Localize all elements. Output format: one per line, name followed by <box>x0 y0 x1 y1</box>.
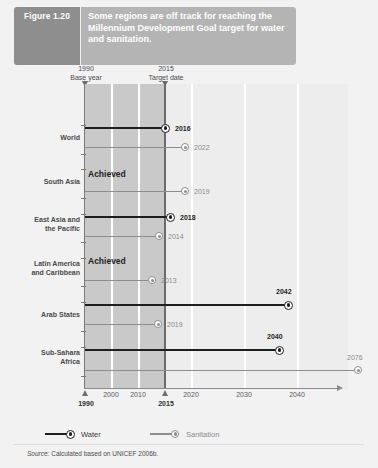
row-tick-sub-sahara-bottom <box>81 376 86 377</box>
figure-panel: Figure 1.20 Some regions are off track f… <box>0 0 378 468</box>
marker-arab-states-water <box>284 301 293 310</box>
row-tick-world-bottom <box>81 154 86 155</box>
xtick-2010: 2010 <box>125 391 151 398</box>
figure-number-badge: Figure 1.20 <box>14 7 80 65</box>
row-tick-east-asia-bottom <box>81 242 86 243</box>
row-label-east-asia-pacific: East Asia and the Pacific <box>10 216 80 233</box>
row-label-line2: the Pacific <box>10 225 80 234</box>
bar-arab-states-water <box>85 304 289 306</box>
value-sub-sahara-water: 2040 <box>267 333 283 340</box>
bar-south-asia-sanitation <box>85 191 185 193</box>
target-date-bottom-arrow-icon <box>162 390 168 396</box>
row-label-line1: Arab States <box>14 311 80 320</box>
target-date-header: 2015 Target date <box>138 64 194 82</box>
legend-water-label: Water <box>81 430 101 439</box>
chart-legend: Water Sanitation <box>0 428 378 442</box>
value-arab-states-sanitation: 2019 <box>167 321 183 328</box>
row-tick-latin-america-top <box>81 258 86 259</box>
marker-sub-sahara-water <box>275 346 284 355</box>
row-label-south-asia: South Asia <box>14 178 80 187</box>
target-date-value: 2015 <box>138 64 194 73</box>
value-world-water: 2016 <box>175 125 191 132</box>
row-label-sub-sahara-africa: Sub-Sahara Africa <box>12 349 80 366</box>
row-label-latin-america: Latin America and Caribbean <box>8 260 80 277</box>
gridline-2020 <box>191 84 193 389</box>
value-sub-sahara-sanitation: 2076 <box>347 354 363 361</box>
row-label-world: World <box>14 134 80 143</box>
achieved-south-asia-water: Achieved <box>88 169 126 179</box>
base-year-footer: 1990 <box>58 399 114 408</box>
value-east-asia-water: 2018 <box>180 214 196 221</box>
row-label-arab-states: Arab States <box>14 311 80 320</box>
value-latin-america-sanitation: 2013 <box>161 277 177 284</box>
value-south-asia-sanitation: 2019 <box>194 188 210 195</box>
achieved-latin-america-water: Achieved <box>88 256 126 266</box>
row-label-line2: and Caribbean <box>8 269 80 278</box>
figure-title-box: Some regions are off track for reaching … <box>81 7 296 65</box>
value-arab-states-water: 2042 <box>276 288 292 295</box>
xtick-2030: 2030 <box>231 391 257 398</box>
xtick-2040: 2040 <box>284 391 310 398</box>
bar-arab-states-sanitation <box>85 324 158 326</box>
figure-title: Some regions are off track for reaching … <box>88 11 292 46</box>
figure-number-label: Figure 1.20 <box>18 11 76 21</box>
bar-world-sanitation <box>85 147 185 149</box>
base-year-value: 1990 <box>58 64 114 73</box>
marker-sub-sahara-sanitation <box>354 366 362 374</box>
row-label-line1: World <box>14 134 80 143</box>
legend-water-marker-icon <box>66 430 75 439</box>
row-tick-latin-america-bottom <box>81 286 86 287</box>
x-axis <box>84 388 338 389</box>
value-east-asia-sanitation: 2014 <box>168 233 184 240</box>
target-date-footer: 2015 <box>138 399 194 408</box>
source-note: Source: Calculated based on UNICEF 2006b… <box>27 450 158 457</box>
marker-world-water <box>161 124 170 133</box>
gridline-2040 <box>297 84 299 389</box>
source-text: Calculated based on UNICEF 2006b. <box>51 450 158 457</box>
bar-east-asia-sanitation <box>85 236 159 238</box>
row-tick-arab-states-bottom <box>81 331 86 332</box>
marker-east-asia-water <box>166 213 175 222</box>
row-label-line2: Africa <box>12 358 80 367</box>
bar-sub-sahara-sanitation <box>85 370 357 372</box>
row-tick-south-asia-top <box>81 169 86 170</box>
row-label-line1: East Asia and <box>10 216 80 225</box>
source-prefix: Source: <box>27 450 49 457</box>
figure-header: Figure 1.20 Some regions are off track f… <box>14 7 364 65</box>
row-label-line1: Sub-Sahara <box>12 349 80 358</box>
base-year-bottom-arrow-icon <box>82 390 88 396</box>
legend-sanitation-label: Sanitation <box>186 430 219 439</box>
legend-sanitation-marker-icon <box>171 430 179 438</box>
footer-divider <box>14 444 364 445</box>
x-axis-arrow-icon <box>337 385 343 391</box>
gridline-2030 <box>244 84 246 389</box>
bar-world-water <box>85 127 167 129</box>
xtick-2020: 2020 <box>178 391 204 398</box>
base-year-header: 1990 Base year <box>58 64 114 82</box>
row-tick-south-asia-bottom <box>81 198 86 199</box>
bar-east-asia-water <box>85 216 171 218</box>
row-label-line1: South Asia <box>14 178 80 187</box>
row-label-line1: Latin America <box>8 260 80 269</box>
value-world-sanitation: 2022 <box>194 144 210 151</box>
bar-latin-america-sanitation <box>85 280 152 282</box>
bar-sub-sahara-water <box>85 349 280 351</box>
chart-plot-area: 1990 Base year 2015 Target date World 20… <box>0 66 378 404</box>
xtick-2000: 2000 <box>98 391 124 398</box>
